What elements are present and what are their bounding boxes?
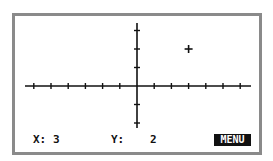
menu-button[interactable]: MENU: [214, 134, 251, 146]
x-label: X:: [33, 133, 46, 146]
y-value: 2: [150, 134, 157, 145]
x-value: 3: [53, 133, 60, 146]
y-label: Y:: [111, 134, 124, 145]
x-coordinate: X: 3: [33, 134, 60, 145]
crosshair-cursor-icon[interactable]: [185, 45, 193, 53]
